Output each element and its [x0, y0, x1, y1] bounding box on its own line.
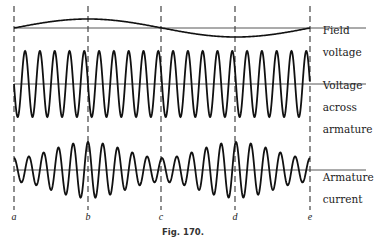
marker-label-e: e	[308, 211, 312, 222]
armature-voltage-label-line3: armature	[323, 123, 373, 135]
field-voltage-label-line1: Field	[323, 24, 350, 36]
field-voltage-label-line2: voltage	[323, 46, 362, 58]
figure-caption: Fig. 170.	[0, 227, 366, 237]
armature-voltage-label: Voltage across armature	[316, 69, 372, 135]
field-voltage-label: Field voltage	[316, 14, 362, 58]
armature-voltage-label-line2: across	[323, 101, 357, 113]
armature-current-label-line1: Armature	[323, 171, 374, 183]
armature-current-label-line2: current	[323, 193, 363, 205]
marker-label-a: a	[12, 211, 17, 222]
armature-current-label: Armature current	[316, 161, 374, 205]
marker-label-c: c	[159, 211, 163, 222]
time-marker-lines	[14, 6, 310, 210]
marker-label-b: b	[86, 211, 91, 222]
waveform-traces	[14, 19, 310, 198]
armature-voltage-trace	[14, 51, 310, 117]
armature-voltage-label-line1: Voltage	[323, 79, 363, 91]
marker-label-d: d	[233, 211, 238, 222]
trace-baselines	[14, 28, 366, 170]
